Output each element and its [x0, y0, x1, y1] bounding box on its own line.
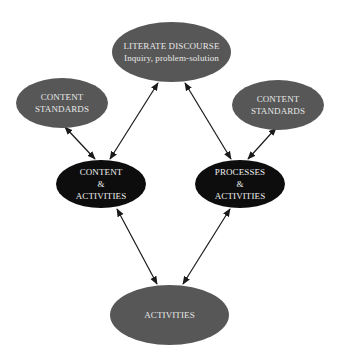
arrow-discourse-processes-activities	[185, 83, 231, 159]
node-label: ACTIVITIES	[215, 190, 266, 202]
arrow-processes-activities-activities	[183, 209, 230, 284]
node-label: LITERATE DISCOURSE	[123, 40, 219, 52]
node-label: CONTENT	[80, 166, 123, 178]
node-label: CONTENT	[257, 93, 300, 105]
node-label: STANDARDS	[35, 103, 89, 115]
node-content-activities: CONTENT & ACTIVITIES	[56, 160, 146, 208]
arrow-content-activities-activities	[117, 209, 157, 284]
node-content-standards-right: CONTENT STANDARDS	[232, 80, 324, 130]
node-literate-discourse: LITERATE DISCOURSE Inquiry, problem-solu…	[112, 22, 231, 82]
arrow-standards-right-processes-activities	[248, 128, 276, 159]
node-label: ACTIVITIES	[144, 309, 195, 321]
node-label: PROCESSES	[215, 166, 265, 178]
node-activities: ACTIVITIES	[110, 285, 229, 345]
node-label: CONTENT	[41, 91, 84, 103]
node-processes-activities: PROCESSES & ACTIVITIES	[195, 160, 285, 208]
node-label: &	[236, 178, 243, 190]
node-content-standards-left: CONTENT STANDARDS	[16, 78, 108, 128]
node-sublabel: Inquiry, problem-solution	[124, 52, 219, 64]
arrow-discourse-content-activities	[110, 83, 158, 159]
node-label: &	[97, 178, 104, 190]
node-label: STANDARDS	[251, 105, 305, 117]
node-label: ACTIVITIES	[76, 190, 127, 202]
arrow-standards-left-content-activities	[65, 127, 95, 159]
